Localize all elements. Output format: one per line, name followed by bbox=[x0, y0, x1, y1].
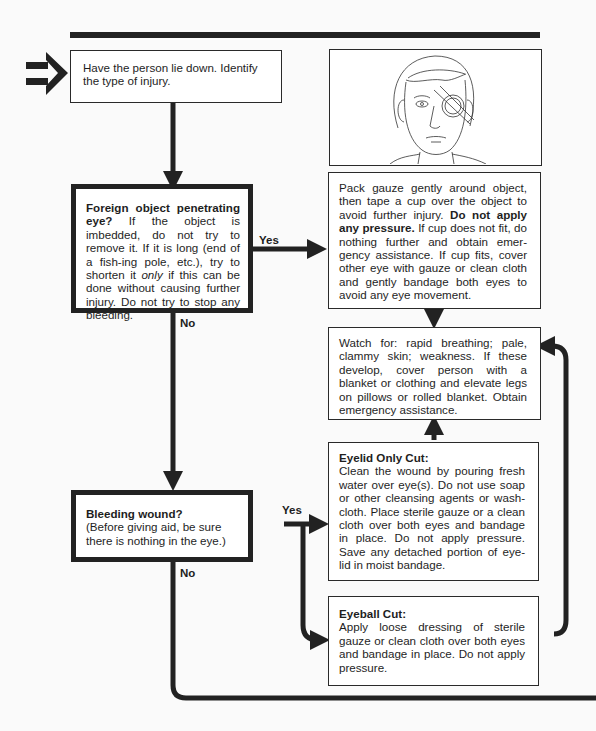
eyelid-cut-box: Eyelid Only Cut: Clean the wound by pour… bbox=[328, 442, 539, 581]
injured-face-illustration bbox=[330, 50, 540, 164]
foreign-object-action-box: Pack gauze gently around object, then ta… bbox=[328, 172, 541, 309]
eyeball-cut-text: Apply loose dressing of sterile gauze or… bbox=[339, 620, 525, 674]
decision-bleeding-text: (Before giving aid, be sure there is not… bbox=[86, 520, 240, 547]
start-text: Have the person lie down. Identify the t… bbox=[83, 61, 269, 88]
decision-bleeding-heading: Bleeding wound? bbox=[86, 507, 240, 520]
yes-label-foreign-object: Yes bbox=[259, 234, 279, 246]
eyelid-cut-heading: Eyelid Only Cut: bbox=[339, 451, 525, 464]
decision-bleeding-box: Bleeding wound? (Before giving aid, be s… bbox=[71, 490, 253, 562]
start-box: Have the person lie down. Identify the t… bbox=[70, 50, 282, 103]
eyeball-cut-heading: Eyeball Cut: bbox=[339, 607, 525, 620]
foreign-object-action-text: Pack gauze gently around object, then ta… bbox=[339, 181, 527, 302]
decision-foreign-object-text: Foreign object penetrating eye? If the o… bbox=[86, 201, 240, 322]
decision-foreign-object-italic: only bbox=[141, 268, 162, 281]
yes-label-bleeding: Yes bbox=[282, 504, 302, 516]
entry-arrow-icon bbox=[26, 52, 68, 95]
top-rule bbox=[70, 32, 540, 38]
no-label-foreign-object: No bbox=[180, 317, 195, 329]
watch-for-text: Watch for: rapid breathing; pale, clammy… bbox=[339, 336, 527, 416]
eyeball-cut-box: Eyeball Cut: Apply loose dressing of ste… bbox=[328, 596, 539, 686]
illustration-box bbox=[329, 49, 542, 166]
decision-foreign-object-box: Foreign object penetrating eye? If the o… bbox=[71, 184, 253, 313]
eyelid-cut-text: Clean the wound by pouring fresh water o… bbox=[339, 464, 525, 571]
no-label-bleeding: No bbox=[180, 567, 195, 579]
watch-for-box: Watch for: rapid breathing; pale, clammy… bbox=[328, 327, 541, 420]
